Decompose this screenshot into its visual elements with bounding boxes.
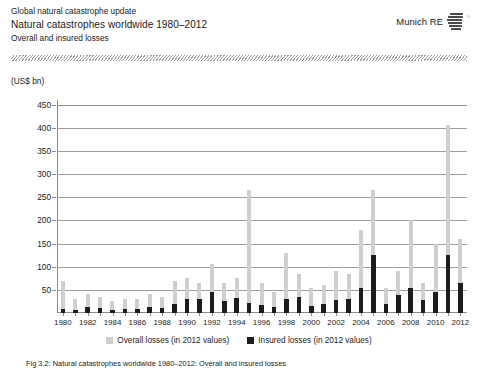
x-tick-1997 bbox=[274, 313, 275, 316]
bar-group-1999 bbox=[293, 100, 305, 313]
y-axis-label-50: 50 bbox=[42, 285, 51, 295]
insured-loss-bar-2004 bbox=[359, 288, 364, 313]
x-axis-label-1994: 1994 bbox=[228, 318, 246, 327]
insured-loss-bar-1994 bbox=[234, 298, 239, 313]
x-tick-2002 bbox=[336, 313, 337, 316]
x-tick-1992 bbox=[212, 313, 213, 316]
y-axis-label-200: 200 bbox=[37, 215, 51, 225]
bar-group-1983 bbox=[94, 100, 106, 313]
x-tick-2009 bbox=[423, 313, 424, 316]
bar-group-2004 bbox=[355, 100, 367, 313]
bar-group-2006 bbox=[380, 100, 392, 313]
bar-group-1989 bbox=[169, 100, 181, 313]
bar-group-1998 bbox=[281, 100, 293, 313]
bar-group-1997 bbox=[268, 100, 280, 313]
y-axis-label-150: 150 bbox=[37, 239, 51, 249]
x-axis-label-2012: 2012 bbox=[452, 318, 470, 327]
bar-group-1986 bbox=[132, 100, 144, 313]
insured-loss-bar-2000 bbox=[309, 306, 314, 313]
overall-loss-bar-1980 bbox=[61, 281, 65, 313]
insured-loss-bar-2005 bbox=[371, 255, 376, 313]
insured-loss-bar-1995 bbox=[247, 303, 252, 313]
bar-group-2003 bbox=[343, 100, 355, 313]
x-axis-label-1982: 1982 bbox=[79, 318, 97, 327]
x-tick-1983 bbox=[100, 313, 101, 316]
legend-swatch-insured bbox=[247, 337, 254, 344]
x-axis-label-1988: 1988 bbox=[153, 318, 171, 327]
x-axis-label-1980: 1980 bbox=[54, 318, 72, 327]
y-tick-mark-100 bbox=[52, 267, 56, 268]
x-tick-1994 bbox=[237, 313, 238, 316]
y-axis-label-350: 350 bbox=[37, 146, 51, 156]
x-tick-1993 bbox=[224, 313, 225, 316]
x-axis-label-2010: 2010 bbox=[427, 318, 445, 327]
y-tick-mark-150 bbox=[52, 244, 56, 245]
x-tick-1990 bbox=[187, 313, 188, 316]
insured-loss-bar-1996 bbox=[259, 305, 264, 313]
bar-group-1984 bbox=[107, 100, 119, 313]
insured-loss-bar-1998 bbox=[284, 299, 289, 313]
bar-series-container bbox=[57, 100, 467, 313]
y-axis-label-400: 400 bbox=[37, 123, 51, 133]
bar-group-1990 bbox=[181, 100, 193, 313]
x-tick-2005 bbox=[373, 313, 374, 316]
y-tick-mark-300 bbox=[52, 174, 56, 175]
insured-loss-bar-2012 bbox=[458, 283, 463, 313]
insured-loss-bar-2002 bbox=[334, 300, 339, 313]
insured-loss-bar-2003 bbox=[346, 299, 351, 313]
legend-item-insured: Insured losses (in 2012 values) bbox=[247, 336, 371, 345]
bar-group-1988 bbox=[156, 100, 168, 313]
x-axis-label-1996: 1996 bbox=[253, 318, 271, 327]
x-tick-1984 bbox=[113, 313, 114, 316]
x-tick-1991 bbox=[199, 313, 200, 316]
plot-area: 50100150200250300350400450 1980198219841… bbox=[57, 100, 467, 313]
y-tick-mark-350 bbox=[52, 151, 56, 152]
x-tick-1982 bbox=[88, 313, 89, 316]
x-tick-2006 bbox=[386, 313, 387, 316]
x-tick-1995 bbox=[249, 313, 250, 316]
y-axis-label-450: 450 bbox=[37, 100, 51, 110]
bar-group-2009 bbox=[417, 100, 429, 313]
x-tick-1998 bbox=[286, 313, 287, 316]
bar-group-1987 bbox=[144, 100, 156, 313]
bar-group-1995 bbox=[243, 100, 255, 313]
y-axis-label-250: 250 bbox=[37, 192, 51, 202]
bar-group-1991 bbox=[194, 100, 206, 313]
x-tick-1981 bbox=[75, 313, 76, 316]
overall-loss-bar-1995 bbox=[247, 190, 251, 313]
losses-bar-chart: 50100150200250300350400450 1980198219841… bbox=[0, 0, 478, 369]
legend-item-overall: Overall losses (in 2012 values) bbox=[106, 336, 229, 345]
x-axis-label-1984: 1984 bbox=[104, 318, 122, 327]
insured-loss-bar-1991 bbox=[197, 299, 202, 313]
x-tick-1989 bbox=[175, 313, 176, 316]
x-tick-2011 bbox=[448, 313, 449, 316]
insured-loss-bar-2008 bbox=[408, 288, 413, 313]
figure-caption: Fig 3.2: Natural catastrophes worldwide … bbox=[26, 359, 468, 368]
insured-loss-bar-2010 bbox=[433, 292, 438, 313]
bar-group-1993 bbox=[219, 100, 231, 313]
bar-group-2012 bbox=[455, 100, 467, 313]
x-axis-label-2006: 2006 bbox=[377, 318, 395, 327]
x-axis-label-1992: 1992 bbox=[203, 318, 221, 327]
chart-legend: Overall losses (in 2012 values)Insured l… bbox=[0, 336, 478, 345]
bar-group-1981 bbox=[69, 100, 81, 313]
insured-loss-bar-1993 bbox=[222, 301, 227, 313]
insured-loss-bar-1989 bbox=[172, 304, 177, 313]
x-axis-label-1990: 1990 bbox=[178, 318, 196, 327]
x-axis-label-2002: 2002 bbox=[327, 318, 345, 327]
x-tick-2012 bbox=[460, 313, 461, 316]
x-tick-2000 bbox=[311, 313, 312, 316]
x-axis-label-2000: 2000 bbox=[303, 318, 321, 327]
y-axis-label-100: 100 bbox=[37, 262, 51, 272]
bar-group-2002 bbox=[330, 100, 342, 313]
x-tick-2007 bbox=[398, 313, 399, 316]
x-tick-2008 bbox=[411, 313, 412, 316]
x-tick-1999 bbox=[299, 313, 300, 316]
bar-group-2001 bbox=[318, 100, 330, 313]
insured-loss-bar-1990 bbox=[185, 299, 190, 313]
insured-loss-bar-2011 bbox=[446, 255, 451, 313]
bar-group-2007 bbox=[392, 100, 404, 313]
insured-loss-bar-2006 bbox=[384, 304, 389, 313]
x-tick-1985 bbox=[125, 313, 126, 316]
y-tick-mark-400 bbox=[52, 128, 56, 129]
